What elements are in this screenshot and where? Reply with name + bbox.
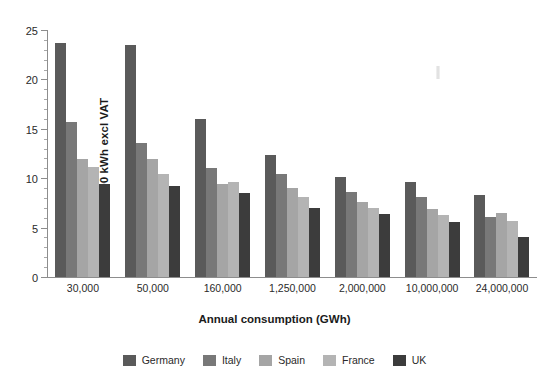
bar-italy[interactable] [206,168,217,277]
y-tick-minor [44,218,47,219]
y-tick-minor [44,99,47,100]
legend-item-france[interactable]: France [323,354,375,366]
y-tick-minor [44,70,47,71]
x-tick-label: 24,000,000 [472,282,532,294]
y-tick-minor [44,198,47,199]
bar-germany[interactable] [405,182,416,277]
y-tick-minor [44,208,47,209]
bar-group [125,30,180,277]
x-axis-tick-labels: 30,00050,000160,0001,250,0002,000,00010,… [48,282,537,294]
bar-spain[interactable] [427,209,438,277]
bar-france[interactable] [88,167,99,277]
legend-item-italy[interactable]: Italy [203,354,241,366]
bar-spain[interactable] [77,159,88,277]
bar-germany[interactable] [125,45,136,277]
bar-chart-figure: ECU/100 kWh excl VAT 0510152025 30,00050… [0,0,549,385]
y-tick-major [41,30,47,31]
bar-uk[interactable] [309,208,320,277]
bar-germany[interactable] [195,119,206,277]
y-tick-label: 10 [26,174,38,185]
x-tick-label: 2,000,000 [332,282,392,294]
bar-group [55,30,110,277]
bar-uk[interactable] [379,214,390,277]
y-tick-minor [44,237,47,238]
bar-france[interactable] [368,208,379,277]
y-tick-minor [44,89,47,90]
bar-italy[interactable] [276,174,287,277]
bar-uk[interactable] [449,222,460,277]
y-tick-major [41,277,47,278]
y-tick-minor [44,50,47,51]
bar-uk[interactable] [239,193,250,277]
x-tick-label: 50,000 [123,282,183,294]
chart-legend: GermanyItalySpainFranceUK [0,354,549,366]
x-tick-label: 10,000,000 [402,282,462,294]
bar-uk[interactable] [169,186,180,277]
y-tick-major [41,228,47,229]
legend-swatch-icon [123,355,136,366]
bar-italy[interactable] [346,192,357,277]
legend-swatch-icon [323,355,336,366]
legend-swatch-icon [259,355,272,366]
x-tick-label: 30,000 [53,282,113,294]
legend-item-germany[interactable]: Germany [123,354,185,366]
bar-italy[interactable] [416,197,427,277]
bar-italy[interactable] [485,217,496,277]
y-tick-minor [44,168,47,169]
bar-france[interactable] [507,221,518,277]
y-tick-label: 5 [32,223,38,234]
bar-group [405,30,460,277]
bar-germany[interactable] [265,155,276,278]
y-tick-minor [44,139,47,140]
legend-swatch-icon [203,355,216,366]
y-tick-minor [44,188,47,189]
y-tick-label: 25 [26,26,38,37]
bar-italy[interactable] [66,122,77,277]
bar-germany[interactable] [474,195,485,277]
legend-label: Germany [142,354,185,366]
y-tick-major [41,129,47,130]
scan-artifact [436,66,440,79]
y-tick-major [41,79,47,80]
bar-france[interactable] [158,174,169,277]
y-tick-minor [44,119,47,120]
bar-spain[interactable] [357,202,368,277]
plot-area: 0510152025 [47,30,537,278]
y-tick-minor [44,158,47,159]
bar-spain[interactable] [217,184,228,277]
y-tick-label: 20 [26,75,38,86]
y-tick-minor [44,267,47,268]
x-axis-line [47,277,537,278]
legend-item-uk[interactable]: UK [393,354,427,366]
bar-france[interactable] [298,197,309,277]
y-tick-minor [44,40,47,41]
y-tick-minor [44,247,47,248]
bar-italy[interactable] [136,143,147,277]
bar-uk[interactable] [518,237,529,278]
bar-france[interactable] [438,215,449,277]
bar-group [474,30,529,277]
bar-uk[interactable] [99,184,110,277]
x-tick-label: 160,000 [193,282,253,294]
bar-germany[interactable] [335,177,346,277]
bar-group [195,30,250,277]
y-tick-minor [44,109,47,110]
y-tick-minor [44,60,47,61]
y-tick-minor [44,257,47,258]
y-tick-minor [44,149,47,150]
bar-spain[interactable] [147,159,158,277]
bar-france[interactable] [228,182,239,277]
legend-item-spain[interactable]: Spain [259,354,305,366]
legend-label: Italy [222,354,241,366]
legend-label: France [342,354,375,366]
bar-group [265,30,320,277]
bar-germany[interactable] [55,43,66,277]
bar-spain[interactable] [287,188,298,277]
legend-label: UK [412,354,427,366]
y-tick-label: 15 [26,124,38,135]
bar-spain[interactable] [496,213,507,277]
x-tick-label: 1,250,000 [262,282,322,294]
legend-swatch-icon [393,355,406,366]
y-tick-label: 0 [32,273,38,284]
y-tick-major [41,178,47,179]
